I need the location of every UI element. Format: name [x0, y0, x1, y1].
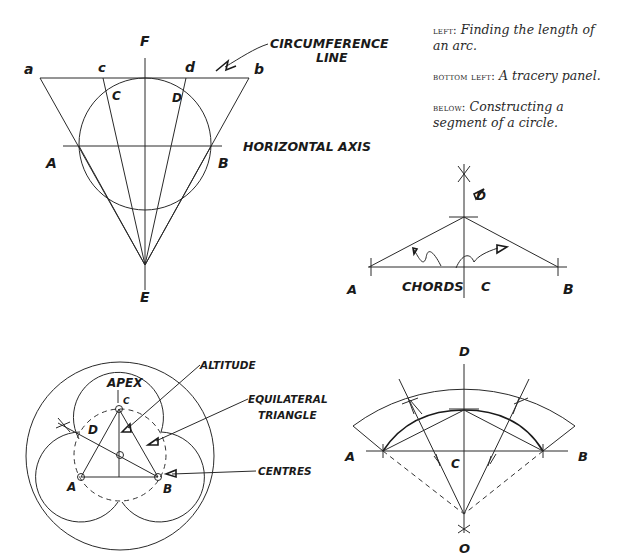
label-c-upper: C	[112, 89, 121, 103]
chords-diagram: D A B C CHORDS	[346, 164, 574, 298]
label-d-lower: d	[185, 59, 196, 75]
equilateral-label-2: TRIANGLE	[258, 409, 317, 421]
caption-lead: below:	[433, 101, 466, 113]
equilateral-label-1: EQUILATERAL	[248, 393, 328, 405]
chord-leader-right	[456, 248, 498, 268]
label-d: D	[459, 344, 470, 359]
caption-lead: bottom left:	[433, 70, 495, 82]
label-a-upper: A	[45, 155, 57, 171]
label-a: A	[66, 480, 76, 494]
caption-left: left: Finding the length of an arc.	[433, 22, 613, 53]
label-d: D	[88, 423, 98, 437]
line-A-e	[79, 146, 145, 265]
caption-text: A tracery panel.	[499, 68, 601, 83]
horizontal-axis-label: HORIZONTAL AXIS	[243, 139, 371, 154]
label-b: B	[578, 449, 588, 464]
intersection-mark	[513, 398, 528, 414]
centres-leader	[172, 471, 256, 474]
circumference-label-2: LINE	[316, 50, 348, 65]
altitude-label: ALTITUDE	[199, 359, 257, 371]
label-c-lower: c	[98, 60, 106, 75]
caption-lead: left:	[433, 24, 457, 36]
altitude-leader	[128, 365, 200, 428]
band-right	[543, 426, 575, 451]
bisector-right	[464, 379, 529, 514]
label-b-lower: b	[254, 61, 264, 77]
line-d-e	[145, 78, 186, 265]
arrow-icon	[148, 438, 158, 445]
label-a: A	[344, 449, 355, 464]
label-c: C	[481, 279, 491, 294]
label-a: A	[346, 282, 357, 297]
label-f: F	[140, 33, 150, 49]
caption-bottom-left: bottom left: A tracery panel.	[433, 68, 613, 84]
radius-right	[464, 451, 543, 514]
line-B-e	[145, 146, 211, 265]
centres-label: CENTRES	[258, 465, 312, 477]
caption-below: below: Constructing a segment of a circl…	[433, 99, 613, 130]
chord-leader-left	[414, 250, 441, 266]
label-d: D	[476, 189, 486, 203]
triangle-left	[81, 409, 119, 477]
chord-left	[369, 217, 464, 267]
captions: left: Finding the length of an arc. bott…	[433, 22, 613, 145]
circumference-label-1: CIRCUMFERENCE	[270, 36, 389, 51]
arc-length-diagram: F E a b c d C D A B CIRCUMFERENCE LINE H…	[24, 33, 389, 305]
label-o: O	[459, 541, 470, 556]
label-a-lower: a	[24, 61, 33, 77]
intersection-mark	[434, 454, 440, 466]
band-left	[353, 426, 383, 451]
tracery-diagram: APEX C D A B ALTITUDE EQUILATERAL TRIANG…	[26, 359, 328, 550]
segment-diagram: D A B C O	[344, 344, 588, 556]
label-c: C	[451, 457, 460, 471]
label-b: B	[163, 482, 172, 496]
caption-text: Finding the length of an arc.	[433, 22, 595, 53]
chords-label: CHORDS	[402, 279, 464, 294]
line-c-e	[103, 78, 145, 265]
segment-arc	[383, 410, 543, 451]
chord-right	[464, 217, 558, 267]
apex-label: APEX	[106, 376, 143, 390]
equilateral-leader	[156, 399, 248, 441]
label-e: E	[140, 289, 150, 305]
arrow-icon	[497, 245, 507, 253]
label-c: C	[123, 396, 130, 406]
intersection-mark	[56, 418, 70, 432]
label-b-upper: B	[218, 155, 229, 171]
label-b: B	[563, 281, 574, 297]
label-d-upper: D	[172, 91, 182, 105]
